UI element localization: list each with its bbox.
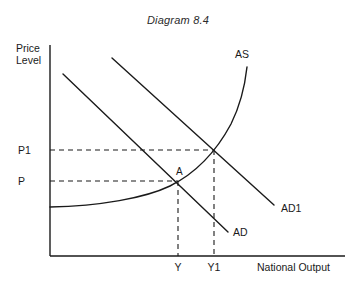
tick-label-price-low: P bbox=[18, 175, 42, 187]
curve-label-aggregate-demand: AD bbox=[233, 226, 248, 238]
curve-label-aggregate-demand-shifted: AD1 bbox=[281, 202, 301, 214]
tick-label-price-high: P1 bbox=[18, 144, 42, 156]
y-axis-label: Price Level bbox=[16, 43, 41, 66]
aggregate-demand-curve bbox=[63, 74, 228, 232]
ad-as-chart-svg bbox=[0, 0, 356, 290]
x-axis-label: National Output bbox=[257, 262, 330, 274]
aggregate-demand-shifted-curve bbox=[112, 58, 274, 205]
aggregate-supply-curve bbox=[50, 67, 247, 207]
diagram-figure: Diagram 8.4 Price Level National Output … bbox=[0, 0, 356, 290]
curve-label-aggregate-supply: AS bbox=[235, 48, 249, 60]
point-label-equilibrium-a: A bbox=[176, 166, 183, 177]
tick-label-output-low: Y bbox=[166, 261, 190, 273]
tick-label-output-high: Y1 bbox=[201, 261, 227, 273]
